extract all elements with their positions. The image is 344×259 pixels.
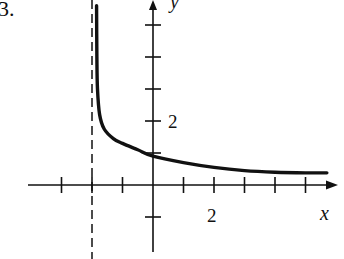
x-tick-label-2: 2 bbox=[207, 205, 217, 226]
x-axis-arrow-icon bbox=[326, 181, 338, 190]
y-tick-label-2: 2 bbox=[168, 111, 178, 132]
function-graph: 3. 2 2 x y bbox=[0, 0, 344, 259]
problem-label: 3. bbox=[0, 0, 15, 21]
y-axis-arrow-icon bbox=[149, 0, 157, 10]
function-curve bbox=[97, 6, 327, 173]
x-axis-label: x bbox=[319, 202, 329, 224]
y-axis-label: y bbox=[168, 0, 179, 13]
